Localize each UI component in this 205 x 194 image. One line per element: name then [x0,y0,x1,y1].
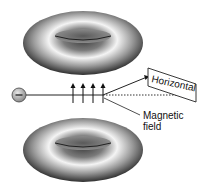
field-arrow [101,83,106,103]
top-magnet-torus [23,11,143,75]
field-arrow [71,83,76,103]
deflection-diagram: Horizontal Magnetic field [0,0,205,194]
magnetic-field-label-line1: Magnetic [143,110,184,121]
magnetic-field-arrows [71,83,106,103]
negative-particle [12,88,26,102]
magnetic-field-leader-line [104,98,140,115]
magnetic-field-label-line2: field [143,121,161,132]
bottom-magnet-torus [23,118,143,182]
field-arrow [91,83,96,103]
field-arrow [81,83,86,103]
deflected-path [103,77,147,95]
